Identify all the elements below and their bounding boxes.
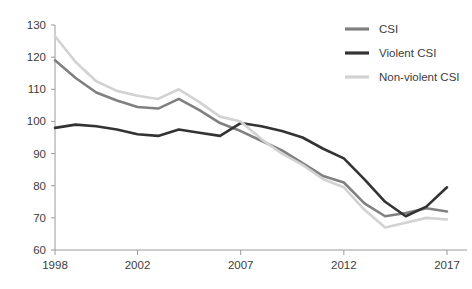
x-tick-label: 2017 <box>434 259 460 271</box>
legend-label-1: Violent CSI <box>379 47 436 59</box>
legend-label-2: Non-violent CSI <box>379 71 460 83</box>
series-line-non-violent-csi <box>55 36 447 227</box>
chart-legend: CSIViolent CSINon-violent CSI <box>345 23 460 83</box>
series-lines <box>55 36 447 227</box>
line-chart: 60708090100110120130 1998200220072012201… <box>0 0 472 289</box>
x-tick-label: 2007 <box>228 259 254 271</box>
y-tick-label: 120 <box>27 51 46 63</box>
y-tick-label: 130 <box>27 19 46 31</box>
chart-canvas: 60708090100110120130 1998200220072012201… <box>0 0 472 289</box>
y-tick-label: 110 <box>28 83 46 95</box>
y-tick-label: 60 <box>33 244 46 256</box>
y-axis: 60708090100110120130 <box>27 19 55 256</box>
legend-label-0: CSI <box>379 23 398 35</box>
y-tick-label: 70 <box>33 212 46 224</box>
series-line-csi <box>55 60 447 216</box>
x-tick-label: 2002 <box>125 259 151 271</box>
x-tick-label: 2012 <box>331 259 357 271</box>
x-axis: 19982002200720122017 <box>42 250 467 271</box>
y-tick-label: 90 <box>33 148 46 160</box>
x-tick-label: 1998 <box>42 259 68 271</box>
y-tick-label: 80 <box>33 180 46 192</box>
y-tick-label: 100 <box>27 115 46 127</box>
